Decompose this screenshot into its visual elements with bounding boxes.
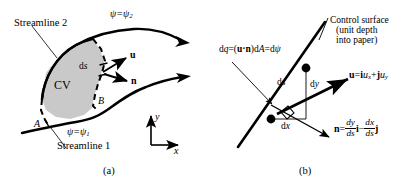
point-b-label: B <box>98 96 104 107</box>
dq-eq-open: =( <box>229 44 238 54</box>
dy-y: y <box>315 79 319 89</box>
normal-vector-arrow-b <box>271 105 329 137</box>
n-frac-dy-ds: dy ds <box>345 118 356 139</box>
panel-a-caption: (a) <box>103 165 115 176</box>
dx-label: dx <box>281 122 290 132</box>
normal-label-a: n <box>131 76 137 87</box>
figure-container: Streamline 2 ψ=ψ2 CV ds u n A B ψ=ψ1 Str… <box>0 0 417 186</box>
leader-dq <box>232 62 272 104</box>
n-frac-dx-ds: dx ds <box>364 118 375 139</box>
psi-bottom-label: ψ=ψ1 <box>67 127 90 138</box>
point-a-tick <box>45 120 49 127</box>
psi-top-text: ψ=ψ <box>110 8 129 19</box>
ds-label-a: ds <box>79 62 87 72</box>
control-surface-line-3: into paper) <box>330 36 389 46</box>
dq-psi: ψ <box>275 44 281 54</box>
dx-x: x <box>286 121 290 131</box>
normal-vector-arrow-a <box>104 74 127 81</box>
point-a-label: A <box>34 119 40 130</box>
ds-label-b: ds <box>277 78 285 88</box>
normal-equation-label: n= dy ds i− dx ds j <box>334 118 378 139</box>
psi-top-label: ψ=ψ2 <box>110 9 133 20</box>
cv-label: CV <box>54 79 71 92</box>
streamline-2-label: Streamline 2 <box>14 17 67 28</box>
velocity-vector-arrow-a <box>103 58 126 72</box>
dq-close-dA: )d <box>251 44 259 54</box>
psi-bottom-text: ψ=ψ <box>67 126 86 137</box>
control-surface-label: Control surface (unit depth into paper) <box>330 16 389 46</box>
leader-streamline-2 <box>32 26 57 58</box>
axis-x-label: x <box>174 146 178 157</box>
panel-b-caption: (b) <box>299 165 311 176</box>
ds-s-a: s <box>84 61 88 71</box>
dq-equation-label: dq=(u·n)dA=dψ <box>219 45 281 55</box>
u-vec-uy-sub: y <box>385 73 388 80</box>
ds-s-b: s <box>282 77 286 87</box>
streamline-1-label: Streamline 1 <box>57 140 110 151</box>
n-frac-2-den: ds <box>364 129 375 139</box>
n-frac-1-den: ds <box>345 129 356 139</box>
psi-top-subscript: 2 <box>129 12 132 19</box>
velocity-label-a: u <box>130 50 136 61</box>
velocity-equation-label: u=iux+juy <box>349 70 388 81</box>
dq-eq2: =d <box>265 44 275 54</box>
streamline-2-arrowhead <box>175 36 190 47</box>
n-vec-j: j <box>375 123 378 134</box>
dy-label: dy <box>310 80 319 90</box>
psi-bottom-subscript: 1 <box>86 130 89 137</box>
axis-y-label: y <box>155 112 159 123</box>
